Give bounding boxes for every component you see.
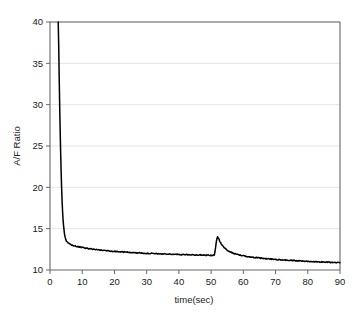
x-tick-label: 30: [141, 276, 152, 287]
y-tick-label: 40: [32, 16, 43, 27]
x-tick-label: 60: [238, 276, 249, 287]
x-tick-label: 50: [206, 276, 217, 287]
y-tick-label: 20: [32, 182, 43, 193]
y-tick-label: 30: [32, 99, 43, 110]
chart-canvas: 0102030405060708090 10152025303540 time(…: [0, 0, 355, 325]
y-tick-label: 15: [32, 223, 43, 234]
y-tick-label: 10: [32, 264, 43, 275]
x-tick-label: 0: [47, 276, 52, 287]
y-tick-label: 25: [32, 140, 43, 151]
x-tick-label: 10: [77, 276, 88, 287]
x-tick-label: 20: [109, 276, 120, 287]
x-tick-label: 80: [302, 276, 313, 287]
x-axis-title: time(sec): [174, 294, 213, 305]
y-tick-label: 35: [32, 58, 43, 69]
chart-figure: 0102030405060708090 10152025303540 time(…: [0, 0, 355, 325]
x-tick-label: 90: [335, 276, 346, 287]
x-tick-label: 40: [174, 276, 185, 287]
y-axis-title: A/F Ratio: [11, 126, 22, 166]
x-tick-label: 70: [270, 276, 281, 287]
